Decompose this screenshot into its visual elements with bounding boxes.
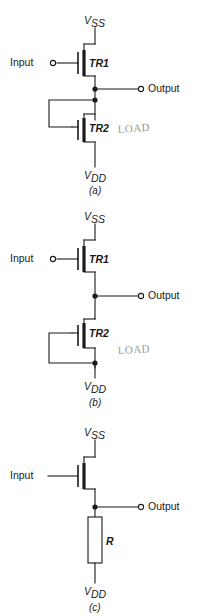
figure-b-tr1-label: TR1 — [89, 253, 109, 265]
figure-b-tr2-label: TR2 — [89, 327, 109, 339]
figure-c-input-label: Input — [10, 469, 33, 481]
figure-b-input-label: Input — [10, 252, 33, 264]
figure-a-input-label: Input — [10, 56, 33, 68]
figure-a-vdd-label: VDD — [84, 169, 107, 184]
figure-b-output-terminal[interactable] — [138, 293, 143, 298]
figure-c-vss-label: VSS — [84, 426, 105, 441]
figure-c-resistor-label: R — [106, 535, 114, 547]
figure-b-input-terminal[interactable] — [50, 256, 55, 261]
figure-c-output-terminal[interactable] — [138, 504, 143, 509]
figure-a-tr1-label: TR1 — [89, 57, 109, 69]
figure-b-vss-label: VSS — [84, 210, 105, 225]
figure-a-output-label: Output — [148, 82, 180, 94]
figure-a-schematic: VSS Input TR1 Output — [0, 0, 210, 200]
figure-a-vss-label: VSS — [84, 14, 105, 29]
figure-a-handwritten-load-note: LOAD — [117, 121, 150, 135]
figure-c-caption: (c) — [89, 602, 101, 613]
figure-b-schematic: VSS Input TR1 Output TR2 LOAD VDD (b) — [0, 200, 210, 412]
figure-a-output-terminal[interactable] — [138, 86, 143, 91]
figure-c-output-label: Output — [148, 500, 180, 512]
figure-c-vdd-label: VDD — [84, 585, 107, 600]
figure-b-handwritten-load-note: LOAD — [117, 342, 150, 356]
figure-b-vdd-label: VDD — [84, 380, 107, 395]
figure-a-tr2-label: TR2 — [89, 122, 109, 134]
figure-a: VSS Input TR1 Output — [0, 0, 210, 200]
figure-c-resistor-body — [88, 517, 102, 563]
figure-a-caption: (a) — [89, 185, 101, 196]
figure-c-schematic: VSS Input Output R VDD (c) — [0, 412, 210, 616]
figure-c: VSS Input Output R VDD (c) — [0, 412, 210, 616]
figure-b-output-label: Output — [148, 289, 180, 301]
figure-b: VSS Input TR1 Output TR2 LOAD VDD (b) — [0, 200, 210, 412]
figure-b-caption: (b) — [89, 397, 101, 408]
figure-a-input-terminal[interactable] — [50, 60, 55, 65]
